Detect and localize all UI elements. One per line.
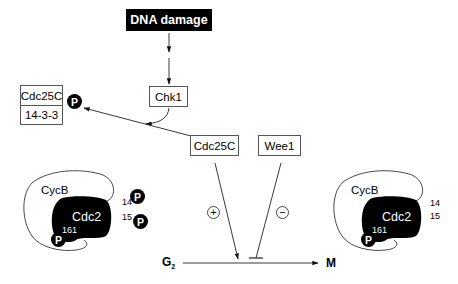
g2-phase-label: G2 xyxy=(162,256,175,270)
site-15-label-left: 15 xyxy=(122,213,132,222)
site-15-label-right: 15 xyxy=(430,212,440,221)
inhibition-minus-icon: − xyxy=(276,206,289,219)
cdc25c-box: Cdc25C xyxy=(190,135,239,156)
cdc2-label-left: Cdc2 xyxy=(72,211,101,224)
site-161-label-right: 161 xyxy=(372,226,387,235)
phosphate-cdc25c-icon: P xyxy=(67,94,82,109)
cycb-label-right: CycB xyxy=(351,185,378,197)
wee1-box: Wee1 xyxy=(258,135,301,156)
cdc25c-sequestered-box: Cdc25C xyxy=(20,85,63,106)
g2-letter: G xyxy=(162,255,171,269)
phosphate-14-icon: P xyxy=(130,189,145,204)
phosphate-161-left-icon: P xyxy=(51,232,66,247)
chk1-catalysis-arrow xyxy=(146,108,169,124)
protein-14-3-3-box: 14-3-3 xyxy=(20,105,63,125)
cycb-label-left: CycB xyxy=(41,185,68,197)
cdc2-label-right: Cdc2 xyxy=(382,211,411,224)
activation-plus-icon: + xyxy=(207,206,220,219)
chk1-box: Chk1 xyxy=(149,86,188,107)
phosphate-161-right-icon: P xyxy=(361,232,376,247)
phosphate-15-icon: P xyxy=(133,214,148,229)
cdc25c-to-1433-arrow xyxy=(84,108,191,136)
site-161-label-left: 161 xyxy=(62,226,77,235)
dna-damage-label: DNA damage xyxy=(126,9,212,31)
site-14-label-right: 14 xyxy=(430,199,440,208)
m-phase-label: M xyxy=(326,257,336,269)
g2-subscript: 2 xyxy=(171,263,175,270)
